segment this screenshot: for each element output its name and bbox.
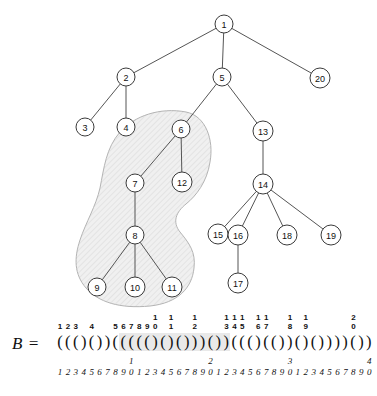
tree-node-10[interactable]: 10 xyxy=(125,277,145,297)
node-index-label-18: 18 xyxy=(286,314,294,331)
tree-node-8[interactable]: 8 xyxy=(126,226,144,244)
ruler-unit-18: 8 xyxy=(191,368,199,378)
node-label-11: 11 xyxy=(167,283,176,293)
node-index-label-6: 6 xyxy=(119,323,127,332)
ruler-tens-4: 4 xyxy=(365,357,373,367)
ruler-unit-13: 3 xyxy=(151,368,159,378)
tree-edge-14-15 xyxy=(225,191,257,226)
bp-char-9: ( xyxy=(119,333,127,351)
bp-char-37: ) xyxy=(341,333,349,351)
node-label-1: 1 xyxy=(221,20,226,30)
tree-node-18[interactable]: 18 xyxy=(277,225,297,245)
tree-node-19[interactable]: 19 xyxy=(321,225,341,245)
tree-node-12[interactable]: 12 xyxy=(172,172,192,192)
ruler-unit-33: 3 xyxy=(310,368,318,378)
ruler-unit-4: 4 xyxy=(80,368,88,378)
tree-node-7[interactable]: 7 xyxy=(126,174,144,192)
node-index-label-20: 20 xyxy=(349,314,357,331)
ruler-unit-40: 0 xyxy=(365,368,373,378)
tree-node-4[interactable]: 4 xyxy=(117,118,135,136)
tree-diagram: 1252034613712148151618199101117 xyxy=(0,0,377,320)
node-label-2: 2 xyxy=(123,73,128,83)
bp-char-33: ( xyxy=(310,333,318,351)
ruler-unit-31: 1 xyxy=(294,368,302,378)
ruler-unit-23: 3 xyxy=(230,368,238,378)
bp-char-34: ) xyxy=(317,333,325,351)
bp-char-18: ) xyxy=(191,333,199,351)
ruler-tens-3: 3 xyxy=(286,357,294,367)
ruler-unit-8: 8 xyxy=(112,368,120,378)
node-index-label-17: 17 xyxy=(262,314,270,331)
bp-char-14: ( xyxy=(159,333,167,351)
ruler-unit-5: 5 xyxy=(88,368,96,378)
bp-char-8: ( xyxy=(111,333,119,351)
ruler-unit-1: 1 xyxy=(56,368,64,378)
ruler-unit-14: 4 xyxy=(159,368,167,378)
ruler-unit-32: 2 xyxy=(302,368,310,378)
node-index-label-12: 12 xyxy=(191,314,199,331)
node-index-label-9: 9 xyxy=(143,323,151,332)
ruler-unit-39: 9 xyxy=(357,368,365,378)
bp-char-12: ( xyxy=(143,333,151,351)
bp-char-13: ) xyxy=(151,333,159,351)
ruler-unit-35: 5 xyxy=(326,368,334,378)
tree-node-9[interactable]: 9 xyxy=(88,278,106,296)
ruler-unit-37: 7 xyxy=(341,368,349,378)
tree-node-3[interactable]: 3 xyxy=(76,118,94,136)
tree-node-16[interactable]: 16 xyxy=(228,225,248,245)
ruler-unit-7: 7 xyxy=(104,368,112,378)
bp-char-11: ( xyxy=(135,333,143,351)
bp-char-6: ) xyxy=(96,333,104,351)
tree-node-14[interactable]: 14 xyxy=(253,174,273,194)
ruler-unit-20: 0 xyxy=(207,368,215,378)
ruler-unit-17: 7 xyxy=(183,368,191,378)
node-index-label-7: 7 xyxy=(127,323,135,332)
bp-char-25: ( xyxy=(246,333,254,351)
node-index-label-14: 14 xyxy=(230,314,238,331)
bp-string: ((()())((((()()()))())((()(())()())))()) xyxy=(56,333,373,351)
tree-node-11[interactable]: 11 xyxy=(162,277,182,297)
tree-node-2[interactable]: 2 xyxy=(117,68,135,86)
bp-char-16: ( xyxy=(175,333,183,351)
node-label-20: 20 xyxy=(315,74,325,84)
ruler-unit-9: 9 xyxy=(119,368,127,378)
node-label-9: 9 xyxy=(94,283,99,293)
node-index-label-16: 16 xyxy=(254,314,262,331)
bp-char-38: ( xyxy=(349,333,357,351)
node-label-5: 5 xyxy=(219,73,224,83)
ruler-unit-22: 2 xyxy=(223,368,231,378)
bp-char-40: ) xyxy=(365,333,373,351)
tree-node-17[interactable]: 17 xyxy=(228,273,248,293)
bp-char-10: ( xyxy=(127,333,135,351)
tree-node-6[interactable]: 6 xyxy=(172,120,190,138)
bp-char-15: ) xyxy=(167,333,175,351)
tree-node-13[interactable]: 13 xyxy=(253,121,273,141)
bp-char-22: ) xyxy=(222,333,230,351)
ruler-unit-34: 4 xyxy=(318,368,326,378)
tree-edge-1-20 xyxy=(232,28,311,73)
tree-node-15[interactable]: 15 xyxy=(208,224,228,244)
ruler-unit-19: 9 xyxy=(199,368,207,378)
tree-node-5[interactable]: 5 xyxy=(213,68,231,86)
bp-char-27: ( xyxy=(262,333,270,351)
node-label-15: 15 xyxy=(213,230,223,240)
ruler-unit-12: 2 xyxy=(143,368,151,378)
node-label-13: 13 xyxy=(258,127,268,137)
node-label-8: 8 xyxy=(132,231,137,241)
node-label-18: 18 xyxy=(282,231,292,241)
bp-char-1: ( xyxy=(56,333,64,351)
ruler-unit-29: 9 xyxy=(278,368,286,378)
node-index-label-15: 15 xyxy=(238,314,246,331)
bp-char-4: ) xyxy=(80,333,88,351)
bp-char-28: ( xyxy=(270,333,278,351)
bp-char-24: ( xyxy=(238,333,246,351)
tree-edge-14-18 xyxy=(267,193,282,226)
tree-node-20[interactable]: 20 xyxy=(310,68,330,88)
bp-char-5: ( xyxy=(88,333,96,351)
tree-node-1[interactable]: 1 xyxy=(215,15,233,33)
node-index-label-13: 13 xyxy=(223,314,231,331)
bp-char-31: ( xyxy=(294,333,302,351)
tree-edge-14-19 xyxy=(271,190,323,229)
subtree-highlight-blob xyxy=(76,111,211,307)
bp-char-20: ( xyxy=(207,333,215,351)
